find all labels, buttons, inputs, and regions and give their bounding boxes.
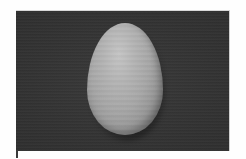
page-canvas [0, 0, 246, 159]
egg [87, 23, 163, 135]
egg-photo [16, 10, 230, 151]
margin-tick-mark [16, 150, 18, 158]
